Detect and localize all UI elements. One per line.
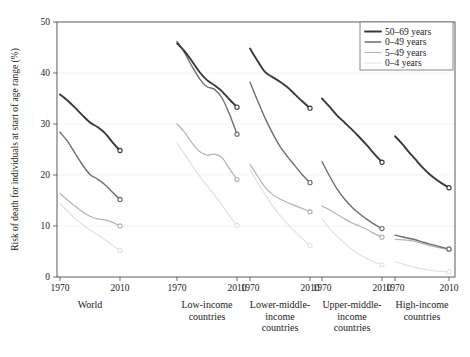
- data-series-group: [60, 41, 451, 274]
- series-line: [322, 206, 382, 237]
- x-tick-label: 1970: [313, 283, 332, 293]
- series-endpoint-marker: [447, 186, 451, 190]
- series-line: [60, 132, 120, 199]
- y-axis-title: Risk of death for individuals at start o…: [10, 48, 21, 251]
- legend-label: 5–49 years: [385, 48, 427, 58]
- series-line: [177, 124, 237, 180]
- series-endpoint-marker: [447, 247, 451, 251]
- series-line: [60, 204, 120, 251]
- series-line: [177, 43, 237, 107]
- series-line: [60, 94, 120, 150]
- series-line: [322, 162, 382, 229]
- y-axis-title-group: Risk of death for individuals at start o…: [10, 48, 21, 251]
- y-tick-label: 20: [41, 170, 51, 180]
- legend-group: 50–69 years0–49 years5–49 years0–4 years: [360, 22, 453, 70]
- series-line: [395, 136, 449, 188]
- series-line: [395, 239, 449, 249]
- y-tick-label: 40: [41, 68, 51, 78]
- x-axis-ticks-group: 1970201019702010197020101970201019702010: [51, 277, 459, 293]
- series-line: [395, 235, 449, 249]
- series-endpoint-marker: [308, 106, 312, 110]
- series-endpoint-marker: [118, 148, 122, 152]
- panel-label: countries: [262, 322, 299, 333]
- panel-label: Lower-middle-: [250, 299, 310, 310]
- y-axis-ticks-group: 01020304050: [41, 17, 58, 282]
- y-tick-label: 0: [45, 272, 50, 282]
- panel-label: High-income: [396, 299, 449, 310]
- y-tick-label: 50: [41, 17, 51, 27]
- panel-label: countries: [334, 322, 371, 333]
- x-tick-label: 1970: [386, 283, 405, 293]
- series-endpoint-marker: [447, 270, 451, 274]
- series-line: [177, 41, 237, 134]
- series-endpoint-marker: [308, 243, 312, 247]
- x-tick-label: 1970: [241, 283, 260, 293]
- series-endpoint-marker: [235, 132, 239, 136]
- panel-labels-group: WorldLow-incomecountriesLower-middle-inc…: [78, 299, 449, 333]
- panel-label: countries: [189, 311, 226, 322]
- chart-figure: 01020304050 1970201019702010197020101970…: [0, 0, 470, 357]
- series-line: [395, 262, 449, 272]
- series-endpoint-marker: [308, 181, 312, 185]
- x-tick-label: 1970: [51, 283, 70, 293]
- x-tick-label: 1970: [168, 283, 187, 293]
- series-line: [322, 99, 382, 163]
- panel-label: countries: [404, 311, 441, 322]
- series-line: [250, 82, 310, 182]
- series-endpoint-marker: [380, 263, 384, 267]
- legend-label: 0–4 years: [385, 58, 422, 68]
- series-endpoint-marker: [118, 224, 122, 228]
- series-endpoint-marker: [235, 177, 239, 181]
- series-endpoint-marker: [118, 248, 122, 252]
- panel-label: Upper-middle-: [322, 299, 381, 310]
- panel-label: income: [337, 311, 367, 322]
- series-line: [250, 164, 310, 211]
- series-endpoint-marker: [380, 160, 384, 164]
- series-endpoint-marker: [380, 235, 384, 239]
- series-endpoint-marker: [235, 223, 239, 227]
- series-endpoint-marker: [118, 197, 122, 201]
- legend-label: 0–49 years: [385, 37, 427, 47]
- panel-label: income: [265, 311, 295, 322]
- series-endpoint-marker: [380, 226, 384, 230]
- chart-canvas: 01020304050 1970201019702010197020101970…: [0, 0, 470, 357]
- series-line: [250, 49, 310, 109]
- y-tick-label: 10: [41, 221, 51, 231]
- x-tick-label: 2010: [111, 283, 130, 293]
- panel-label: World: [78, 299, 103, 310]
- x-tick-label: 2010: [440, 283, 459, 293]
- series-endpoint-marker: [308, 210, 312, 214]
- legend-label: 50–69 years: [385, 27, 431, 37]
- series-line: [60, 193, 120, 226]
- panel-label: Low-income: [181, 299, 233, 310]
- y-tick-label: 30: [41, 119, 51, 129]
- series-endpoint-marker: [235, 105, 239, 109]
